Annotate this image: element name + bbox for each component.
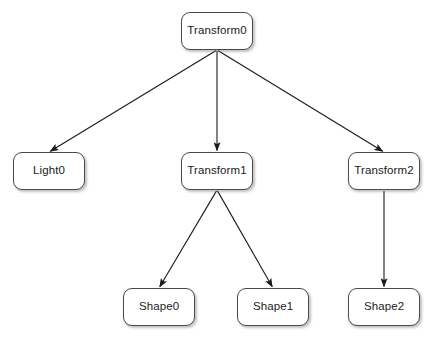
node-shape1[interactable]: Shape1 [237,288,309,326]
node-label-shape2: Shape2 [364,301,404,313]
edge-transform0-to-light0 [50,51,216,152]
node-transform0[interactable]: Transform0 [181,12,253,50]
node-transform2[interactable]: Transform2 [348,152,420,190]
diagram-canvas: Transform0Light0Transform1Transform2Shap… [0,0,427,343]
node-label-shape1: Shape1 [253,301,293,313]
node-shape2[interactable]: Shape2 [348,288,420,326]
node-label-light0: Light0 [33,165,65,177]
edge-transform1-to-shape1 [218,191,273,287]
node-transform1[interactable]: Transform1 [181,152,253,190]
edge-transform1-to-shape0 [160,191,217,287]
node-label-shape0: Shape0 [139,301,179,313]
node-label-transform2: Transform2 [354,165,413,177]
node-label-transform0: Transform0 [187,25,246,37]
node-label-transform1: Transform1 [187,165,246,177]
edge-transform0-to-transform2 [218,51,383,152]
node-light0[interactable]: Light0 [13,152,85,190]
node-shape0[interactable]: Shape0 [123,288,195,326]
